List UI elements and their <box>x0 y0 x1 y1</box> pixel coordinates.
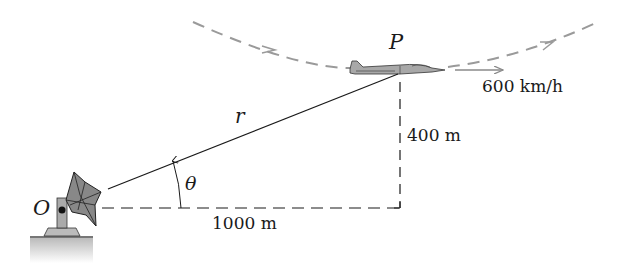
radar-tracking-diagram <box>0 0 630 263</box>
label-angle-theta: θ <box>185 172 196 194</box>
label-origin-O: O <box>33 196 50 220</box>
label-speed: 600 km/h <box>482 76 563 96</box>
label-horizontal-distance: 1000 m <box>212 213 277 233</box>
range-line-r <box>108 74 398 189</box>
angle-theta-arc-icon <box>173 161 181 208</box>
label-vertical-distance: 400 m <box>407 125 461 145</box>
right-angle-corner <box>394 202 400 208</box>
path-direction-arrow-left-icon <box>262 46 275 53</box>
aircraft-icon <box>350 61 445 74</box>
label-range-r: r <box>235 104 245 128</box>
label-aircraft-P: P <box>389 30 403 54</box>
